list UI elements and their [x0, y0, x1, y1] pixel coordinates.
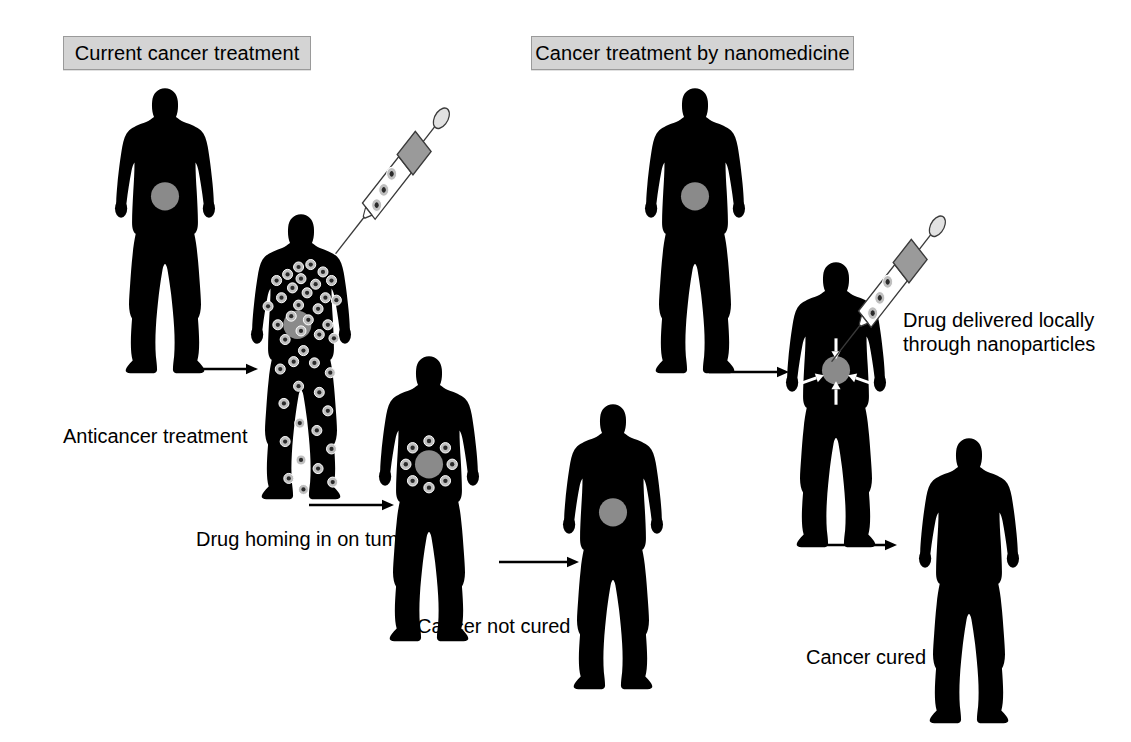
caption-cancer-cured: Cancer cured — [806, 645, 926, 669]
arrow-cancer-not-cured — [498, 553, 580, 571]
caption-drug-delivered-line1: Drug delivered locally — [903, 308, 1094, 332]
caption-cancer-not-cured: Cancer not cured — [417, 614, 570, 638]
arrow-nanomedicine-inject — [708, 363, 790, 381]
figure-left-untreated — [104, 82, 226, 377]
arrow-cancer-cured — [808, 536, 898, 554]
syringe-left — [330, 118, 475, 268]
left-panel-header: Current cancer treatment — [63, 36, 311, 70]
caption-drug-homing: Drug homing in on tumor — [196, 527, 416, 551]
caption-drug-delivered-line2: through nanoparticles — [903, 332, 1095, 356]
figure-left-not-cured — [552, 398, 674, 693]
figure-right-cured — [908, 432, 1030, 727]
right-panel-header-label: Cancer treatment by nanomedicine — [535, 42, 849, 65]
right-panel-header: Cancer treatment by nanomedicine — [531, 36, 854, 70]
diagram-canvas: Current cancer treatment Cancer treatmen… — [0, 0, 1131, 742]
left-panel-header-label: Current cancer treatment — [75, 42, 300, 65]
caption-anticancer-treatment: Anticancer treatment — [63, 424, 248, 448]
arrow-anticancer-treatment — [172, 360, 259, 378]
arrow-drug-homing — [308, 496, 395, 514]
figure-right-untreated — [634, 82, 756, 377]
